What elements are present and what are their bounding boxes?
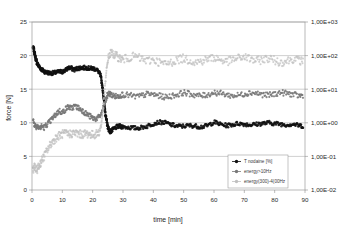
data-point <box>195 95 197 97</box>
data-point <box>164 60 166 62</box>
data-point <box>193 64 195 66</box>
data-point <box>167 61 169 63</box>
data-point <box>247 94 249 96</box>
data-point <box>101 87 104 90</box>
data-point <box>105 74 107 76</box>
data-point <box>195 59 197 61</box>
y-axis-title-group: force [N] <box>5 95 13 121</box>
data-point <box>171 65 173 67</box>
x-tick-label: 60 <box>211 196 218 203</box>
data-point <box>76 136 78 138</box>
data-point <box>226 61 228 63</box>
data-point <box>162 63 164 65</box>
data-point <box>181 56 183 58</box>
data-point <box>103 94 105 96</box>
data-point <box>146 127 149 130</box>
data-point <box>142 55 144 57</box>
data-point <box>272 61 274 63</box>
y-tick-label-left: 15 <box>20 86 27 93</box>
data-point <box>33 48 36 51</box>
data-point <box>244 59 246 61</box>
data-point <box>103 97 105 99</box>
x-tick-label: 10 <box>59 196 66 203</box>
data-point <box>231 94 233 96</box>
data-point <box>101 84 104 87</box>
data-point <box>132 52 134 54</box>
data-point <box>107 59 109 61</box>
data-point <box>46 125 48 127</box>
data-point <box>265 122 268 125</box>
y-tick-label-left: 25 <box>20 18 27 25</box>
data-point <box>208 60 210 62</box>
data-point <box>259 59 261 61</box>
data-point <box>36 170 38 172</box>
y-tick-label-left: 0 <box>24 186 28 193</box>
data-point <box>116 51 118 53</box>
data-point <box>102 112 104 114</box>
data-point <box>130 92 132 94</box>
data-point <box>196 63 198 65</box>
data-point <box>127 58 129 60</box>
y-axis-title: force [N] <box>5 95 13 121</box>
data-point <box>274 63 276 65</box>
data-point <box>104 83 106 85</box>
data-point <box>180 90 182 92</box>
data-point <box>72 109 74 111</box>
data-point <box>138 96 140 98</box>
data-point <box>36 172 38 174</box>
data-point <box>139 128 142 131</box>
y-tick-label-left: 20 <box>20 52 27 59</box>
data-point <box>168 93 170 95</box>
data-point <box>249 60 251 62</box>
data-point <box>268 96 270 98</box>
data-point <box>301 94 303 96</box>
data-point <box>177 59 179 61</box>
data-point <box>78 105 80 107</box>
data-point <box>104 88 106 90</box>
data-point <box>96 119 98 121</box>
data-point <box>298 56 300 58</box>
data-point <box>269 91 271 93</box>
data-point <box>279 62 281 64</box>
data-point <box>172 122 175 125</box>
data-point <box>243 55 245 57</box>
data-point <box>88 115 90 117</box>
data-point <box>188 90 190 92</box>
data-point <box>142 92 144 94</box>
data-point <box>280 59 282 61</box>
data-point <box>189 96 191 98</box>
data-point <box>248 54 250 56</box>
legend-label-2: energy(300)-4(00Hz <box>244 179 286 184</box>
data-point <box>257 91 259 93</box>
data-point <box>195 123 198 126</box>
data-point <box>259 63 261 65</box>
data-point <box>183 89 185 91</box>
data-point <box>160 92 162 94</box>
data-point <box>155 62 157 64</box>
y-tick-label-right: 1,00E+02 <box>311 52 338 59</box>
data-point <box>185 55 187 57</box>
data-point <box>172 92 174 94</box>
x-axis-title: time [min] <box>153 216 183 224</box>
data-point <box>302 58 304 60</box>
data-point <box>210 60 212 62</box>
data-point <box>226 58 228 60</box>
data-point <box>288 93 290 95</box>
data-point <box>100 126 102 128</box>
data-point <box>56 134 58 136</box>
data-point <box>105 72 107 74</box>
data-point <box>258 61 260 63</box>
data-point <box>278 90 280 92</box>
data-point <box>257 55 259 57</box>
data-point <box>74 134 76 136</box>
data-point <box>59 108 61 110</box>
data-point <box>286 58 288 60</box>
data-point <box>105 115 108 118</box>
legend-label-1: energy>10Hz <box>244 169 272 174</box>
data-point <box>233 56 235 58</box>
data-point <box>273 55 275 57</box>
data-point <box>94 133 96 135</box>
data-point <box>101 119 103 121</box>
data-point <box>61 137 63 139</box>
data-point <box>64 111 66 113</box>
